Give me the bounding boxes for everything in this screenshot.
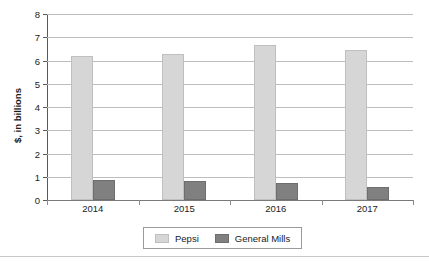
bar-pepsi-2016 [254, 45, 276, 200]
x-tick-label-2017: 2017 [357, 203, 378, 214]
x-tick-mark [47, 200, 48, 205]
x-tick-mark [322, 200, 323, 205]
y-tick-label-1: 1 [35, 171, 40, 182]
y-tick-label-0: 0 [35, 195, 40, 206]
x-tick-label-2016: 2016 [265, 203, 286, 214]
y-tick-label-2: 2 [35, 148, 40, 159]
y-tick-mark [43, 130, 47, 131]
x-tick-mark [230, 200, 231, 205]
y-tick-mark [43, 84, 47, 85]
y-tick-mark [43, 61, 47, 62]
legend-swatch-icon [215, 234, 229, 243]
y-tick-label-7: 7 [35, 32, 40, 43]
legend-label: Pepsi [175, 233, 199, 244]
plot-area: 012345678 [47, 14, 413, 200]
legend-label: General Mills [235, 233, 290, 244]
bar-general-mills-2014 [93, 180, 115, 200]
bar-pepsi-2014 [71, 56, 93, 200]
bar-pepsi-2017 [345, 50, 367, 200]
y-tick-mark [43, 177, 47, 178]
y-axis-title: $, in billions [12, 61, 23, 171]
y-tick-mark [43, 14, 47, 15]
legend-swatch-icon [155, 234, 169, 243]
y-tick-mark [43, 37, 47, 38]
y-tick-mark [43, 107, 47, 108]
y-tick-label-3: 3 [35, 125, 40, 136]
x-tick-label-2014: 2014 [82, 203, 103, 214]
y-tick-label-8: 8 [35, 9, 40, 20]
y-tick-label-4: 4 [35, 102, 40, 113]
y-tick-label-5: 5 [35, 78, 40, 89]
bar-pepsi-2015 [162, 54, 184, 200]
legend-entry-pepsi[interactable]: Pepsi [155, 233, 199, 244]
bar-general-mills-2015 [184, 181, 206, 200]
y-tick-mark [43, 154, 47, 155]
x-tick-mark [413, 200, 414, 205]
gridline-y-7 [47, 37, 413, 38]
y-tick-label-6: 6 [35, 55, 40, 66]
x-tick-mark [139, 200, 140, 205]
bar-general-mills-2017 [367, 187, 389, 200]
chart-legend: PepsiGeneral Mills [143, 227, 302, 249]
x-tick-label-2015: 2015 [174, 203, 195, 214]
legend-entry-general-mills[interactable]: General Mills [215, 233, 290, 244]
plot-inner: 012345678 [47, 14, 413, 200]
gridline-y-8 [47, 14, 413, 15]
bar-general-mills-2016 [276, 183, 298, 200]
chart-figure: $, in billions 012345678 PepsiGeneral Mi… [0, 0, 429, 267]
footer-divider [0, 256, 429, 257]
